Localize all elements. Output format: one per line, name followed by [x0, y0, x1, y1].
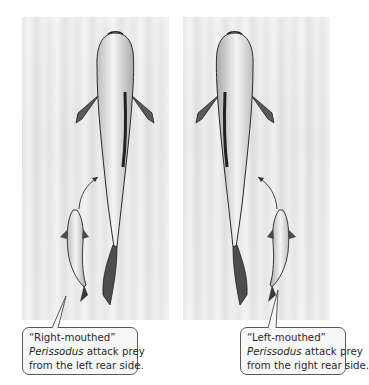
attack-arrow-icon	[79, 177, 98, 209]
predator-fish-icon	[60, 210, 89, 302]
callout-left-mouthed: “Left-mouthed” Perissodus attack prey fr…	[240, 327, 346, 375]
prey-fish-icon	[196, 32, 274, 305]
callout-line-2-rest: attack prey	[302, 346, 363, 357]
attack-arrow-icon	[258, 177, 277, 209]
callout-line-1: “Left-mouthed”	[247, 331, 339, 345]
predator-fish-icon	[267, 210, 296, 302]
callout-line-2: Perissodus attack prey	[247, 345, 339, 359]
callout-line-2: Perissodus attack prey	[29, 345, 131, 359]
callout-line-2-rest: attack prey	[84, 346, 145, 357]
callout-line-3: from the left rear side.	[29, 359, 131, 373]
callout-line-3: from the right rear side.	[247, 359, 339, 373]
callout-line-1: “Right-mouthed”	[29, 331, 131, 345]
left-fish-scene	[22, 17, 169, 320]
right-panel-water	[183, 17, 330, 320]
prey-fish-icon	[76, 32, 154, 305]
genus-name: Perissodus	[29, 346, 84, 357]
left-panel-water	[22, 17, 169, 320]
genus-name: Perissodus	[247, 346, 302, 357]
callout-right-mouthed: “Right-mouthed” Perissodus attack prey f…	[22, 327, 138, 375]
right-fish-scene	[183, 17, 330, 320]
